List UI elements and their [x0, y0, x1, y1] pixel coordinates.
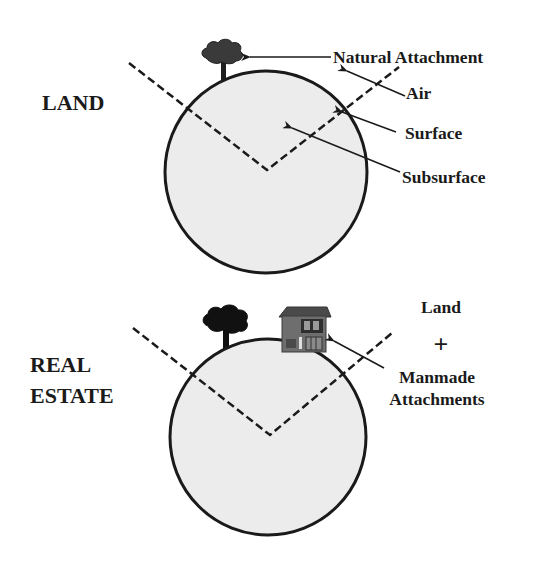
real-estate-title-line2: ESTATE [30, 383, 114, 408]
land-panel: LAND Natural Attachment Air Surface Subs… [42, 39, 486, 273]
air-label: Air [406, 83, 432, 103]
earth-circle [165, 71, 367, 273]
house-icon [279, 307, 331, 352]
real-estate-title-line1: REAL [30, 352, 91, 377]
land-title: LAND [42, 90, 104, 115]
manmade-label-line2: Attachments [389, 389, 484, 409]
natural-attachment-label: Natural Attachment [333, 47, 483, 67]
surface-label: Surface [405, 123, 463, 143]
land-label: Land [421, 297, 461, 317]
manmade-label-line1: Manmade [399, 367, 475, 387]
plus-sign: + [434, 330, 449, 359]
air-arrow [347, 71, 405, 96]
real-estate-panel: REAL ESTATE Land + Manmade [30, 297, 485, 535]
earth-circle [170, 339, 366, 535]
subsurface-label: Subsurface [402, 167, 486, 187]
land-vs-real-estate-diagram: LAND Natural Attachment Air Surface Subs… [0, 0, 541, 567]
